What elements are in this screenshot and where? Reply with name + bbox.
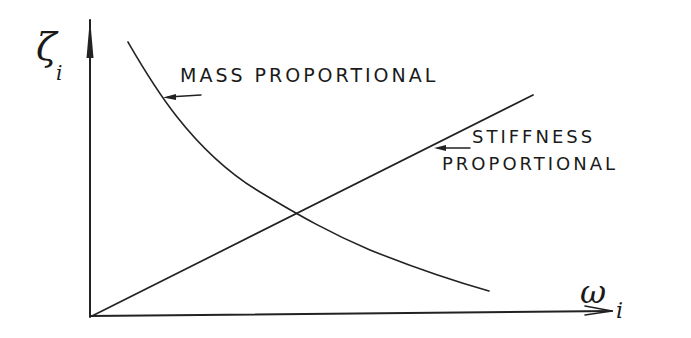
x-subscript: i	[616, 298, 623, 323]
mass-proportional-label: MASS PROPORTIONAL	[180, 64, 438, 86]
stiffness-label-line2: PROPORTIONAL	[442, 153, 618, 174]
omega-symbol: ω	[580, 273, 606, 311]
y-axis-arrowhead-icon	[87, 18, 94, 58]
mass-label-pointer	[163, 94, 201, 100]
y-axis-label: ζ i	[36, 25, 62, 85]
stiffness-label-line1: STIFFNESS	[472, 126, 595, 147]
stiffness-label-pointer	[434, 145, 470, 151]
arrow-left-icon	[163, 94, 176, 100]
arrow-left-icon	[434, 145, 446, 151]
y-axis	[87, 18, 94, 317]
damping-diagram: MASS PROPORTIONAL STIFFNESS PROPORTIONAL…	[0, 0, 691, 338]
y-subscript: i	[56, 61, 62, 85]
x-axis	[90, 306, 612, 316]
stiffness-proportional-line	[92, 95, 533, 316]
diagram-canvas: MASS PROPORTIONAL STIFFNESS PROPORTIONAL…	[0, 0, 691, 338]
